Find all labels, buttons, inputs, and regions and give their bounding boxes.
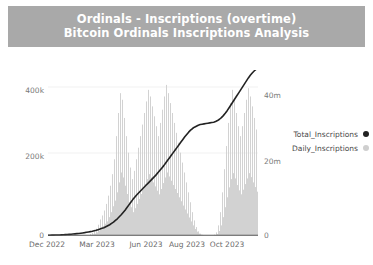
legend-marker-circle-daily (363, 145, 369, 151)
y-right-tick-40m: 40m (264, 91, 281, 100)
daily-inscriptions-bars (60, 85, 258, 235)
y-right-tick-0: 0 (264, 231, 269, 240)
legend-item-daily-inscriptions[interactable]: Daily_Inscriptions (277, 142, 369, 154)
y-left-tick-400k: 400k (12, 86, 44, 95)
legend-marker-circle-total (363, 131, 369, 137)
x-tick-oct-2023: Oct 2023 (194, 240, 260, 249)
chart-title: Ordinals - Inscriptions (overtime) (77, 13, 297, 27)
plot-region (48, 70, 258, 235)
y-left-tick-0: 0 (12, 231, 44, 240)
legend-label-daily-inscriptions: Daily_Inscriptions (292, 144, 358, 153)
chart-subtitle: Bitcoin Ordinals Inscriptions Analysis (64, 27, 309, 41)
chart-legend: Total_Inscriptions Daily_Inscriptions (277, 128, 369, 156)
gridlines (48, 87, 258, 153)
legend-label-total-inscriptions: Total_Inscriptions (294, 130, 358, 139)
y-left-tick-200k: 200k (12, 152, 44, 161)
plot-svg (48, 70, 258, 236)
y-right-tick-20m: 20m (264, 157, 281, 166)
chart-area: 400k 200k 0 40m 20m 0 Dec 2022 Mar 2023 … (0, 48, 373, 265)
legend-item-total-inscriptions[interactable]: Total_Inscriptions (277, 128, 369, 140)
chart-title-band: Ordinals - Inscriptions (overtime) Bitco… (8, 6, 365, 47)
